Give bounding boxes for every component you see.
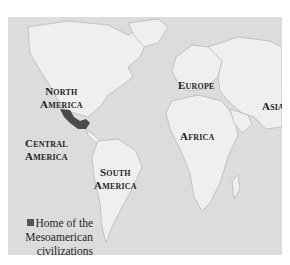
legend-line-3: civilizations [8, 244, 93, 255]
label-south-america-line1: South [94, 166, 137, 179]
africa-landmass [166, 95, 238, 211]
label-africa: Africa [180, 130, 214, 143]
label-central-america-line1: Central [25, 137, 68, 150]
world-map: North America Central America South Amer… [8, 17, 282, 255]
madagascar-landmass [232, 175, 240, 199]
label-north-america-line1: North [40, 85, 83, 98]
legend-line-1: Home of the [8, 216, 93, 230]
legend-swatch-icon [27, 219, 34, 226]
map-legend: Home of the Mesoamerican civilizations [8, 216, 93, 255]
label-south-america-line2: America [94, 179, 137, 192]
label-north-america: North America [40, 85, 83, 111]
label-north-america-line2: America [40, 98, 83, 111]
label-central-america: Central America [25, 137, 68, 163]
legend-text-1: Home of the [36, 217, 93, 229]
label-asia: Asia [262, 100, 282, 113]
label-south-america: South America [94, 166, 137, 192]
legend-line-2: Mesoamerican [8, 230, 93, 244]
label-central-america-line2: America [25, 150, 68, 163]
label-europe: Europe [178, 79, 215, 92]
